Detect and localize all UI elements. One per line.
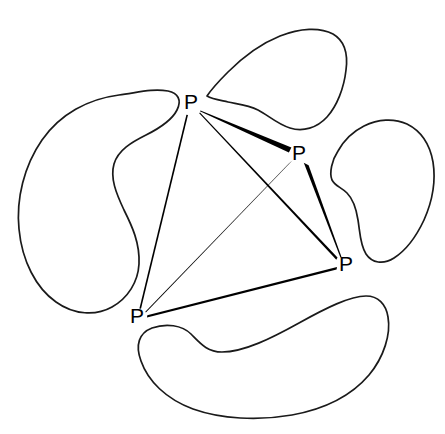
node-label-p1: P	[184, 90, 198, 113]
region-outline-bottom	[138, 296, 388, 418]
edge-p1-p3	[199, 113, 337, 260]
region-outline-top	[207, 29, 347, 129]
region-outline-group	[18, 29, 434, 418]
edge-group	[139, 111, 341, 318]
edge-p1-p4	[139, 115, 188, 309]
edge-p2-p4	[145, 160, 292, 312]
diagram-svg: P P P P	[0, 0, 445, 434]
edge-p3-p4	[147, 267, 337, 318]
node-label-p4: P	[130, 304, 144, 327]
edge-p1-p2	[200, 111, 292, 153]
node-label-p3: P	[339, 252, 353, 275]
node-label-p2: P	[292, 141, 306, 164]
region-outline-right	[331, 120, 434, 262]
diagram-canvas: P P P P	[0, 0, 445, 434]
region-outline-left	[18, 90, 179, 313]
